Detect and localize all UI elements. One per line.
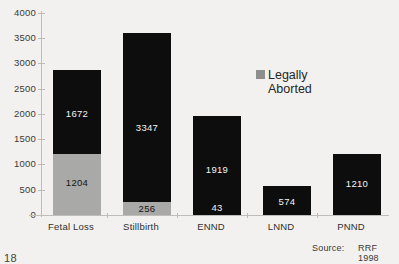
bar-value-label-legally-aborted: 43: [193, 202, 241, 213]
y-axis-label-text: 500: [2, 184, 36, 195]
bar-stillbirth[interactable]: 3347 256: [123, 33, 171, 215]
bar-pnnd[interactable]: 1210: [333, 154, 381, 215]
x-axis-line: [29, 215, 389, 216]
bar-segment-other: [123, 33, 171, 202]
y-axis-label-text: 2500: [2, 83, 36, 94]
y-axis-label-text: 1000: [2, 158, 36, 169]
bar-value-label-legally-aborted: 1204: [53, 177, 101, 188]
bar-ennd[interactable]: 1919 43: [193, 116, 241, 215]
y-axis-label-text: 1500: [2, 133, 36, 144]
y-axis-label: 2500: [0, 83, 36, 95]
bar-fetal-loss[interactable]: 1672 1204: [53, 70, 101, 215]
chart-figure: 4000 3500 3000 2500 2000 1500 1000 500 0…: [0, 0, 399, 264]
y-axis-label: 1500: [0, 133, 36, 145]
bar-value-label-legally-aborted: 256: [123, 203, 171, 214]
x-axis-category-pnnd: PNND: [309, 221, 393, 232]
plot-area: 1672 1204 3347 256 1919 43 574 1210: [42, 13, 387, 215]
y-axis-label: 4000: [0, 7, 36, 19]
y-axis-label-text: 2000: [2, 108, 36, 119]
source-label: Source:: [312, 243, 344, 253]
y-axis-label: 2000: [0, 108, 36, 120]
chart-legend: Legally Aborted: [256, 68, 340, 96]
bar-value-label-other: 3347: [123, 122, 171, 133]
bar-value-label-other: 574: [263, 196, 311, 207]
source-value: RRF 1998: [358, 243, 399, 263]
bar-value-label-other: 1210: [333, 178, 381, 189]
y-axis-label-text: 3500: [2, 32, 36, 43]
page-number: 18: [4, 252, 17, 264]
legend-swatch-icon: [256, 70, 265, 79]
y-axis-label-text: 3000: [2, 57, 36, 68]
bar-value-label-other: 1672: [53, 108, 101, 119]
y-axis-label: 3000: [0, 57, 36, 69]
bar-value-label-other: 1919: [193, 164, 241, 175]
y-axis-label-text: 4000: [2, 7, 36, 18]
legend-label-legally-aborted: Legally Aborted: [268, 68, 340, 96]
bar-lnnd[interactable]: 574: [263, 186, 311, 215]
y-axis-label: 1000: [0, 158, 36, 170]
y-axis-label: 3500: [0, 32, 36, 44]
y-axis-label: 500: [0, 184, 36, 196]
